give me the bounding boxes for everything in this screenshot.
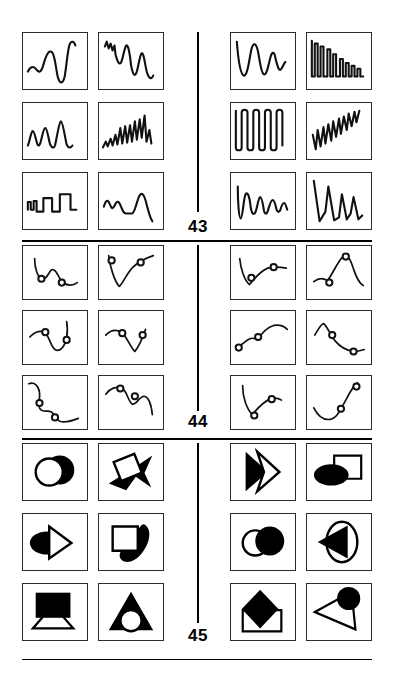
- curve-descend-notch-two-markers[interactable]: [98, 310, 164, 365]
- section-44-grid: [0, 243, 395, 439]
- section-43-grid: [0, 30, 395, 242]
- figure-plate: 43: [0, 0, 395, 676]
- section-divider-rule-top: [22, 240, 372, 242]
- waveform-growing-spike-train[interactable]: [98, 102, 164, 160]
- curve-scoop-up-two-markers[interactable]: [306, 375, 372, 430]
- section-44: 44: [0, 243, 395, 439]
- section-divider-rule-bottom: [22, 438, 372, 440]
- figure-black-diamond-over-open-rect[interactable]: [230, 583, 296, 641]
- waveform-smooth-ripple-to-deep-valley[interactable]: [22, 32, 88, 90]
- curve-double-s-two-markers[interactable]: [22, 375, 88, 430]
- figure-white-circle-in-black-triangle[interactable]: [98, 583, 164, 641]
- curve-hook-rise-two-markers[interactable]: [230, 375, 296, 430]
- curve-rising-arch-two-markers[interactable]: [230, 310, 296, 365]
- curve-valley-rise-two-markers[interactable]: [22, 310, 88, 365]
- figure-black-ellipse-with-open-triangle[interactable]: [22, 513, 88, 571]
- curve-hook-down-two-markers[interactable]: [22, 245, 88, 300]
- waveform-sparse-sharp-spikes[interactable]: [22, 102, 88, 160]
- curve-dip-then-plateau-two-markers[interactable]: [230, 245, 296, 300]
- waveform-damped-sine-decay[interactable]: [230, 32, 296, 90]
- waveform-rounded-humps-falling-tail[interactable]: [98, 172, 164, 230]
- figure-black-rect-over-open-triangle[interactable]: [22, 583, 88, 641]
- figure-open-circle-and-black-disc[interactable]: [230, 513, 296, 571]
- curve-double-arch-two-markers[interactable]: [98, 375, 164, 430]
- waveform-deep-square-wave[interactable]: [230, 102, 296, 160]
- curve-peak-with-shoulder-two-markers[interactable]: [306, 245, 372, 300]
- curve-falling-slope-two-markers[interactable]: [306, 310, 372, 365]
- waveform-square-step-pulses[interactable]: [22, 172, 88, 230]
- waveform-tall-triangular-peaks[interactable]: [306, 172, 372, 230]
- figure-black-disc-on-open-triangle[interactable]: [306, 583, 372, 641]
- waveform-rising-sawtooth-ramp[interactable]: [306, 102, 372, 160]
- figure-black-triangle-with-open-chevron[interactable]: [230, 443, 296, 501]
- section-45-grid: [0, 441, 395, 653]
- figure-black-ellipse-with-open-square[interactable]: [306, 443, 372, 501]
- section-43: 43: [0, 30, 395, 242]
- figure-open-circle-over-black-disc[interactable]: [22, 443, 88, 501]
- section-45: 45: [0, 441, 395, 653]
- figure-black-triangle-in-open-ellipse[interactable]: [306, 513, 372, 571]
- waveform-jagged-descending-oscillation[interactable]: [98, 32, 164, 90]
- figure-white-square-on-black-blob[interactable]: [98, 513, 164, 571]
- waveform-decaying-square-comb[interactable]: [306, 32, 372, 90]
- waveform-shrinking-dips[interactable]: [230, 172, 296, 230]
- plate-bottom-rule: [22, 659, 372, 660]
- figure-white-square-on-black-arrowhead[interactable]: [98, 443, 164, 501]
- curve-v-shape-two-markers[interactable]: [98, 245, 164, 300]
